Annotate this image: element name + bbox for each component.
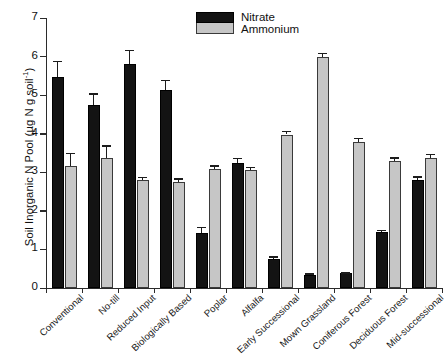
error-bar-cap: [246, 167, 254, 168]
error-bar-cap: [89, 93, 97, 94]
error-bar-cap: [305, 273, 313, 274]
bar-ammonium-conventional: [65, 166, 77, 288]
bar-nitrate-conventional: [52, 77, 64, 288]
bar-nitrate-reduced-input: [124, 64, 136, 288]
bar-ammonium-alfalfa: [245, 170, 257, 288]
figure-bar-chart: Soil Inorganic N Pool (µg N g soil-1) Ni…: [0, 0, 448, 354]
y-axis-title-exponent: -1: [21, 71, 30, 78]
error-bar-cap: [269, 256, 277, 257]
error-bar-cap: [233, 158, 241, 159]
y-tick-2: [40, 210, 46, 211]
error-bar-cap: [197, 227, 205, 228]
bar-ammonium-poplar: [209, 169, 221, 288]
x-label-conventional: Conventional: [37, 292, 85, 338]
y-tick-label-5: 5: [18, 87, 38, 99]
y-tick-6: [40, 56, 46, 57]
bar-nitrate-deciduous-forest: [376, 232, 388, 288]
bar-ammonium-coniferous-forest: [353, 142, 365, 288]
error-bar-cap: [377, 230, 385, 231]
y-tick-1: [40, 249, 46, 250]
error-bar-cap: [318, 53, 326, 54]
error-bar-cap: [174, 178, 182, 179]
y-tick-label-3: 3: [18, 164, 38, 176]
y-tick-label-1: 1: [18, 241, 38, 253]
y-tick-label-0: 0: [18, 280, 38, 292]
error-bar-line: [129, 50, 130, 64]
y-tick-4: [40, 133, 46, 134]
error-bar-line: [165, 80, 166, 90]
bar-ammonium-deciduous-forest: [389, 161, 401, 288]
y-tick-5: [40, 95, 46, 96]
error-bar-cap: [66, 153, 74, 154]
y-tick-3: [40, 172, 46, 173]
error-bar-cap: [53, 61, 61, 62]
error-bar-line: [57, 61, 58, 77]
y-tick-label-7: 7: [18, 10, 38, 22]
bar-nitrate-biologically-based: [160, 90, 172, 288]
error-bar-cap: [354, 138, 362, 139]
y-axis-title-text: Soil Inorganic N Pool (µg N g soil: [23, 78, 35, 246]
y-tick-label-4: 4: [18, 126, 38, 138]
bar-nitrate-mown-grassland: [304, 275, 316, 289]
y-axis-line: [46, 18, 47, 288]
error-bar-cap: [282, 131, 290, 132]
bar-ammonium-mown-grassland: [317, 57, 329, 288]
y-tick-label-6: 6: [18, 49, 38, 61]
error-bar-cap: [426, 154, 434, 155]
y-axis-title-suffix: ): [23, 68, 35, 72]
bar-ammonium-early-successional: [281, 135, 293, 289]
error-bar-cap: [138, 177, 146, 178]
bar-nitrate-coniferous-forest: [340, 273, 352, 288]
error-bar-line: [93, 93, 94, 105]
error-bar-cap: [341, 272, 349, 273]
bar-ammonium-reduced-input: [137, 180, 149, 288]
bar-ammonium-mid-successional: [425, 158, 437, 288]
bar-ammonium-biologically-based: [173, 182, 185, 288]
error-bar-cap: [102, 145, 110, 146]
error-bar-cap: [210, 165, 218, 166]
bar-nitrate-alfalfa: [232, 163, 244, 288]
y-tick-label-2: 2: [18, 203, 38, 215]
error-bar-line: [70, 153, 71, 167]
x-label-no-till: No-till: [96, 292, 121, 317]
error-bar-cap: [161, 80, 169, 81]
bar-nitrate-mid-successional: [412, 180, 424, 288]
bar-nitrate-poplar: [196, 233, 208, 288]
bar-nitrate-no-till: [88, 105, 100, 288]
x-label-early-successional: Early Successional: [235, 292, 302, 354]
bar-nitrate-early-successional: [268, 259, 280, 288]
error-bar-cap: [413, 176, 421, 177]
error-bar-line: [106, 145, 107, 158]
error-bar-cap: [125, 50, 133, 51]
bar-ammonium-no-till: [101, 158, 113, 288]
y-tick-7: [40, 18, 46, 19]
x-axis-category-labels: ConventionalNo-tillReduced InputBiologic…: [46, 292, 446, 354]
plot-area: 01234567: [46, 18, 442, 288]
x-label-alfalfa: Alfalfa: [238, 292, 265, 318]
x-label-poplar: Poplar: [202, 292, 230, 319]
x-axis-line: [46, 288, 442, 289]
error-bar-cap: [390, 157, 398, 158]
